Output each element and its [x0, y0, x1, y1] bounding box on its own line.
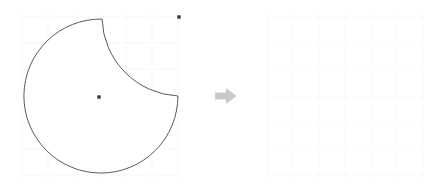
- source-shape-panel: [0, 0, 205, 191]
- notch-center-point: [177, 15, 180, 18]
- notched-circle-outline: [24, 19, 178, 173]
- arrow-panel: [205, 0, 245, 191]
- result-background-grid: [267, 14, 423, 178]
- arrow-right-icon: [213, 83, 239, 109]
- circle-center-point: [97, 95, 100, 98]
- arrow-right-icon-svg: [213, 83, 239, 109]
- result-area-svg: [245, 0, 447, 191]
- figure-canvas: [0, 0, 447, 191]
- result-area-panel: [245, 0, 447, 191]
- source-shape-svg: [0, 0, 205, 191]
